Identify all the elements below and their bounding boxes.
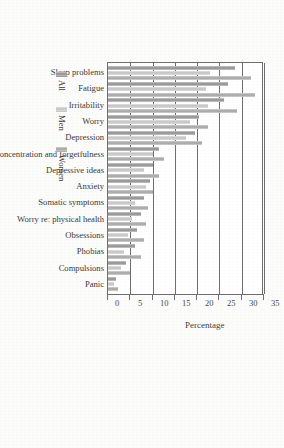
bar	[108, 104, 208, 108]
bar-group	[108, 146, 262, 162]
bar	[108, 98, 224, 102]
bar	[108, 233, 128, 237]
category-label-slot: Worry	[45, 113, 105, 129]
category-label: Worry re: physical health	[17, 214, 104, 223]
category-label-slot: Phobias	[45, 243, 105, 259]
category-labels: Sleep problemsFatigueIrritabilityWorryDe…	[45, 62, 105, 294]
bar	[108, 190, 153, 194]
category-label: Lack of concentration and forgetfulness	[0, 149, 104, 158]
axis-tick	[107, 294, 108, 300]
bar-group	[108, 276, 262, 292]
bar	[108, 109, 237, 113]
category-label-slot: Obsessions	[45, 227, 105, 243]
bar	[108, 261, 126, 265]
bar	[108, 222, 146, 226]
bar-group	[108, 260, 262, 276]
legend-swatch	[56, 72, 67, 77]
bar-group	[108, 243, 262, 259]
category-label: Depression	[65, 133, 104, 142]
axis-tick	[218, 294, 219, 300]
category-label: Anxiety	[76, 182, 104, 191]
legend-label: All	[57, 80, 66, 91]
axis-tick	[152, 294, 153, 300]
bar-group	[108, 211, 262, 227]
bar	[108, 185, 146, 189]
category-label: Worry	[82, 116, 104, 125]
bar	[108, 93, 255, 97]
scanned-page: 05101520253035 Percentage Sleep problems…	[0, 0, 284, 448]
axis-tick-label: 20	[205, 299, 214, 308]
bar	[108, 115, 199, 119]
category-label-slot: Lack of concentration and forgetfulness	[45, 145, 105, 161]
category-label: Fatigue	[78, 84, 104, 93]
category-label: Irritability	[69, 100, 104, 109]
axis-tick-label: 25	[227, 299, 236, 308]
bar-group	[108, 97, 262, 113]
category-label: Compulsions	[59, 263, 104, 272]
bar-group	[108, 130, 262, 146]
bar	[108, 131, 195, 135]
bar	[108, 196, 144, 200]
axis-tick	[129, 294, 130, 300]
bar	[108, 179, 150, 183]
bar	[108, 141, 202, 145]
bar	[108, 201, 135, 205]
bar-group	[108, 162, 262, 178]
bar	[108, 244, 135, 248]
bar	[108, 174, 159, 178]
category-label-slot: Depressive ideas	[45, 162, 105, 178]
legend-item: All	[56, 72, 67, 91]
category-label: Somatic symptoms	[38, 198, 104, 207]
axis-tick-label: 10	[160, 299, 169, 308]
bar-group	[108, 65, 262, 81]
category-label: Obsessions	[65, 230, 104, 239]
category-label: Depressive ideas	[46, 165, 104, 174]
bar	[108, 163, 153, 167]
axis-tick-label: 5	[138, 299, 142, 308]
bar-groups	[108, 63, 262, 294]
category-label-slot: Anxiety	[45, 178, 105, 194]
bar-group	[108, 81, 262, 97]
bar-group	[108, 227, 262, 243]
rotated-figure-container: 05101520253035 Percentage Sleep problems…	[11, 28, 273, 420]
category-label-slot: Somatic symptoms	[45, 194, 105, 210]
bar	[108, 125, 208, 129]
bar	[108, 271, 130, 275]
bar	[108, 136, 186, 140]
bar	[108, 212, 141, 216]
axis-title: Percentage	[185, 320, 224, 330]
bar-group	[108, 179, 262, 195]
bar	[108, 206, 148, 210]
axis-tick-label: 35	[272, 299, 281, 308]
bar	[108, 87, 206, 91]
axis-tick-label: 30	[249, 299, 258, 308]
bar	[108, 250, 124, 254]
legend-swatch	[56, 147, 67, 152]
axis-tick-label: 0	[116, 299, 120, 308]
bar	[108, 266, 121, 270]
category-label-slot: Sleep problems	[45, 64, 105, 80]
bar	[108, 168, 144, 172]
bar	[108, 287, 118, 291]
axis-tick	[241, 294, 242, 300]
axis-tick	[174, 294, 175, 300]
legend: AllMenWomen	[56, 72, 67, 181]
category-label-slot: Irritability	[45, 97, 105, 113]
legend-label: Men	[57, 115, 66, 131]
category-label-slot: Depression	[45, 129, 105, 145]
bar	[108, 82, 228, 86]
axis-tick	[263, 294, 264, 300]
bar	[108, 71, 211, 75]
legend-label: Women	[57, 155, 66, 182]
bar	[108, 152, 153, 156]
bar-group	[108, 195, 262, 211]
axis-tick-label: 15	[182, 299, 191, 308]
legend-swatch	[56, 107, 67, 112]
bar-group	[108, 114, 262, 130]
bar	[108, 147, 159, 151]
bar	[108, 120, 190, 124]
gridline-35	[264, 63, 265, 294]
bar	[108, 228, 137, 232]
plot-frame	[107, 62, 263, 294]
category-label-slot: Worry re: physical health	[45, 211, 105, 227]
